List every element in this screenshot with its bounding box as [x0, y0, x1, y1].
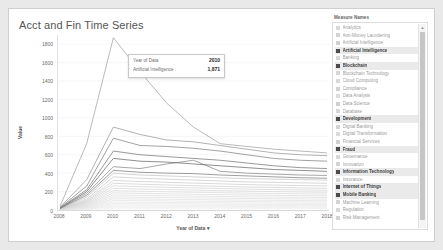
legend-item[interactable]: Database	[335, 108, 419, 116]
legend-swatch-icon	[336, 185, 340, 189]
x-tick-label: 2008	[53, 213, 64, 219]
legend-swatch-icon	[336, 109, 340, 113]
legend-swatch-icon	[336, 140, 340, 144]
legend-item-label: Blockchain Technology	[343, 70, 390, 78]
legend-item-label: Blockchain	[343, 62, 368, 70]
legend-item[interactable]: Governance	[335, 153, 419, 161]
x-tick-label: 2017	[295, 213, 306, 219]
legend-item-label: Compliance	[343, 85, 367, 93]
legend-swatch-icon	[336, 71, 340, 75]
legend-item-label: Governance	[343, 153, 368, 161]
legend-swatch-icon	[336, 125, 340, 129]
legend-item[interactable]: Analytics	[335, 24, 419, 32]
legend-item[interactable]: Blockchain Technology	[335, 70, 419, 78]
legend-item-label: Machine Learning	[343, 199, 380, 207]
legend-item-label: Mobile Banking	[343, 191, 377, 199]
legend-item-label: Development	[343, 115, 372, 123]
legend-item[interactable]: Banking	[335, 54, 419, 62]
tooltip-row-measure: Artificial Intelligence : 1,871	[133, 66, 220, 75]
legend-item[interactable]: Digital Transformation	[335, 130, 419, 138]
y-tick-label: 1200	[23, 97, 53, 103]
y-tick-label: 1800	[23, 41, 53, 47]
legend-item-label: Information Technology	[343, 168, 395, 176]
y-tick-label: 0	[23, 208, 53, 214]
legend-list: AnalyticsAnti-Money LaunderingArtificial…	[333, 23, 419, 221]
page-title: Acct and Fin Time Series	[19, 19, 144, 31]
legend-item[interactable]: Compliance	[335, 85, 419, 93]
legend-item[interactable]: Blockchain	[335, 62, 419, 70]
legend-item-label: Analytics	[343, 24, 361, 32]
legend-item[interactable]: Data Analysis	[335, 92, 419, 100]
y-tick-label: 1000	[23, 115, 53, 121]
x-tick-label: 2018	[321, 213, 332, 219]
x-tick-label: 2016	[268, 213, 279, 219]
legend-item-label: Banking	[343, 54, 360, 62]
y-tick-label: 200	[23, 189, 53, 195]
legend-swatch-icon	[336, 79, 340, 83]
legend-swatch-icon	[336, 33, 340, 37]
legend-swatch-icon	[336, 208, 340, 212]
x-tick-label: 2014	[214, 213, 225, 219]
legend-item-label: Internet of Things	[343, 183, 382, 191]
x-axis-label[interactable]: Year of Data ▾	[57, 225, 329, 231]
legend-item[interactable]: Mobile Banking	[335, 191, 419, 199]
legend-swatch-icon	[336, 147, 340, 151]
tooltip-measure-value: 1,871	[207, 66, 220, 72]
legend-item-label: Anti-Money Laundering	[343, 32, 391, 40]
legend-item[interactable]: Innovation	[335, 161, 419, 169]
y-tick-label: 400	[23, 171, 53, 177]
legend-swatch-icon	[336, 132, 340, 136]
chevron-down-icon[interactable]: ▾	[207, 225, 210, 231]
legend-swatch-icon	[336, 200, 340, 204]
legend-item[interactable]: Digital Banking	[335, 123, 419, 131]
legend-title: Measure Names	[334, 15, 430, 20]
legend-item-label: Data Analysis	[343, 92, 371, 100]
tooltip-row-year: Year of Data 2010	[133, 57, 220, 66]
legend-item[interactable]: Cloud Computing	[335, 77, 419, 85]
scroll-up-icon[interactable]: ▲	[420, 25, 425, 31]
y-axis-ticks: 180016001400120010008006004002000	[23, 35, 55, 211]
legend-item-label: Regulation	[343, 206, 365, 214]
legend-swatch-icon	[336, 87, 340, 91]
legend-swatch-icon	[336, 216, 340, 220]
legend-item[interactable]: Risk Management	[335, 214, 419, 222]
legend-scrollbar[interactable]: ▲	[418, 24, 426, 228]
legend-item[interactable]: Internet of Things	[335, 183, 419, 191]
x-axis-ticks: 2008200920102011201220132014201520162017…	[57, 213, 329, 225]
legend-box: AnalyticsAnti-Money LaunderingArtificial…	[332, 22, 428, 230]
legend-swatch-icon	[336, 178, 340, 182]
legend-item[interactable]: Insurance	[335, 176, 419, 184]
legend-item-label: Artificial Intelligence	[343, 39, 384, 47]
legend-item-label: Artificial Intelligence	[343, 47, 388, 55]
legend-item[interactable]: Anti-Money Laundering	[335, 32, 419, 40]
legend-swatch-icon	[336, 56, 340, 60]
legend-item-label: Fraud	[343, 146, 356, 154]
legend-item[interactable]: Regulation	[335, 206, 419, 214]
legend-scrollbar-thumb[interactable]	[420, 32, 425, 220]
legend-swatch-icon	[336, 102, 340, 106]
legend-swatch-icon	[336, 26, 340, 30]
legend-swatch-icon	[336, 117, 340, 121]
legend-item[interactable]: Data Science	[335, 100, 419, 108]
tooltip-year-key: Year of Data	[133, 58, 158, 63]
x-tick-label: 2009	[80, 213, 91, 219]
x-tick-label: 2010	[107, 213, 118, 219]
legend-item[interactable]: Financial Services	[335, 138, 419, 146]
y-tick-label: 1400	[23, 78, 53, 84]
y-tick-label: 800	[23, 134, 53, 140]
x-tick-label: 2011	[134, 213, 145, 219]
legend-swatch-icon	[336, 64, 340, 68]
legend-swatch-icon	[336, 41, 340, 45]
legend-item-label: Financial Services	[343, 138, 380, 146]
legend-item[interactable]: Artificial Intelligence	[335, 39, 419, 47]
legend-item[interactable]: Development	[335, 115, 419, 123]
legend-item[interactable]: Machine Learning	[335, 199, 419, 207]
legend-panel: Measure Names AnalyticsAnti-Money Launde…	[332, 15, 430, 237]
legend-item[interactable]: Fraud	[335, 146, 419, 154]
legend-item-label: Insurance	[343, 176, 363, 184]
legend-item-label: Digital Transformation	[343, 130, 388, 138]
legend-item-label: Digital Banking	[343, 123, 374, 131]
legend-item[interactable]: Artificial Intelligence	[335, 47, 419, 55]
legend-item-label: Innovation	[343, 161, 364, 169]
legend-item[interactable]: Information Technology	[335, 168, 419, 176]
